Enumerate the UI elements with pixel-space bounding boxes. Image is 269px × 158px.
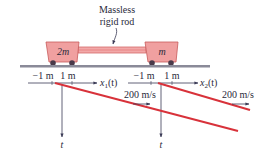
x2-tick-neg-label: −1 m [134, 70, 155, 81]
x1-tick-neg-label: −1 m [33, 70, 54, 81]
rod-label-line2: rigid rod [100, 16, 135, 27]
wheel-icon [50, 60, 56, 66]
wheel-icon [69, 60, 75, 66]
ground-track [20, 65, 210, 68]
rod-label: Massless rigid rod [99, 4, 135, 44]
speed-label-1: 200 m/s [124, 89, 156, 100]
time-axis-2: t [160, 84, 163, 150]
x2-tick-pos-label: 1 m [164, 70, 180, 81]
cart-right-mass-label: m [158, 46, 165, 57]
time-axis-2-label: t [160, 139, 163, 150]
time-axis-1-label: t [61, 139, 64, 150]
cart-right: m [145, 42, 178, 66]
x1-axis-label: x1(t) [99, 77, 117, 90]
wheel-icon [149, 60, 155, 66]
time-axis-1: t [61, 84, 64, 150]
speed-annotation-2: 200 m/s [222, 89, 254, 104]
rigid-rod-spacetime-diagram: Massless rigid rod 2m m −1 m 1 m x1(t) − [0, 0, 269, 158]
x1-tick-pos-label: 1 m [60, 70, 76, 81]
wheel-icon [168, 60, 174, 66]
rod-pointer-arrow-icon [113, 28, 117, 44]
x2-axis-label: x2(t) [199, 77, 217, 90]
cart-left-mass-label: 2m [57, 46, 69, 57]
massless-rigid-rod [78, 47, 146, 53]
speed-label-2: 200 m/s [222, 89, 254, 100]
rod-label-line1: Massless [99, 4, 135, 15]
cart-left: 2m [46, 42, 79, 66]
